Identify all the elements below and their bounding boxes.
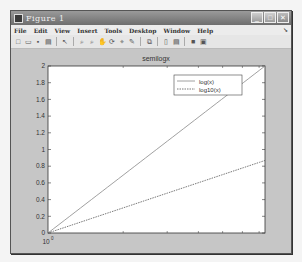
maximize-button[interactable]: □ bbox=[264, 12, 276, 23]
legend-entry-log10: log10(x) bbox=[199, 87, 221, 93]
figure-window: Figure 1 _ □ ✕ File Edit View Insert Too… bbox=[10, 10, 292, 254]
show-plot-tools-icon[interactable]: ▣ bbox=[199, 38, 207, 46]
data-cursor-icon[interactable]: ⌖ bbox=[118, 38, 126, 46]
toolbar-divider bbox=[140, 37, 141, 46]
y-tick-label: 1.8 bbox=[36, 79, 45, 86]
link-plot-icon[interactable]: ⧉ bbox=[145, 38, 153, 46]
menu-view[interactable]: View bbox=[54, 27, 70, 34]
y-tick-label: 1.6 bbox=[36, 96, 45, 103]
plot-axes[interactable]: semilogx 00.20.40.60.811.21.41.61.82 10 … bbox=[11, 49, 291, 255]
insert-colorbar-icon[interactable]: ▯ bbox=[162, 38, 170, 46]
figure-canvas: semilogx 00.20.40.60.811.21.41.61.82 10 … bbox=[11, 49, 291, 253]
dock-arrow-icon[interactable]: ↘ bbox=[283, 26, 288, 33]
y-tick-label: 0.2 bbox=[36, 213, 45, 220]
zoom-out-icon[interactable]: ⌕ bbox=[88, 38, 96, 46]
pan-icon[interactable]: ✋ bbox=[98, 38, 106, 46]
new-figure-icon[interactable]: □ bbox=[14, 38, 22, 46]
matlab-figure-icon bbox=[14, 14, 23, 23]
y-tick-label: 0 bbox=[41, 229, 45, 236]
insert-legend-icon[interactable]: ▤ bbox=[172, 38, 180, 46]
y-tick-label: 1.4 bbox=[36, 112, 45, 119]
open-file-icon[interactable]: ▭ bbox=[24, 38, 32, 46]
window-title: Figure 1 bbox=[26, 14, 65, 23]
close-button[interactable]: ✕ bbox=[277, 12, 289, 23]
menu-tools[interactable]: Tools bbox=[105, 27, 122, 34]
menu-file[interactable]: File bbox=[14, 27, 27, 34]
menu-desktop[interactable]: Desktop bbox=[129, 27, 157, 34]
brush-icon[interactable]: ✎ bbox=[128, 38, 136, 46]
legend[interactable]: log(x) log10(x) bbox=[174, 75, 242, 95]
toolbar-divider bbox=[157, 37, 158, 46]
x-tick-label: 10 bbox=[42, 238, 50, 245]
menu-insert[interactable]: Insert bbox=[77, 27, 97, 34]
rotate-3d-icon[interactable]: ⟳ bbox=[108, 38, 116, 46]
toolbar-divider bbox=[184, 37, 185, 46]
chart-title: semilogx bbox=[142, 55, 170, 63]
zoom-in-icon[interactable]: ⌕ bbox=[78, 38, 86, 46]
y-tick-label: 2 bbox=[41, 62, 45, 69]
print-icon[interactable]: ▤ bbox=[44, 38, 52, 46]
menu-bar: File Edit View Insert Tools Desktop Wind… bbox=[11, 25, 291, 35]
y-tick-label: 0.8 bbox=[36, 162, 45, 169]
menu-help[interactable]: Help bbox=[197, 27, 213, 34]
y-tick-label: 1.2 bbox=[36, 129, 45, 136]
menu-window[interactable]: Window bbox=[164, 27, 191, 34]
y-tick-label: 0.4 bbox=[36, 196, 45, 203]
figure-toolbar: □ ▭ ▪ ▤ ↖ ⌕ ⌕ ✋ ⟳ ⌖ ✎ ⧉ ▯ ▤ ■ ▣ bbox=[11, 35, 291, 49]
save-icon[interactable]: ▪ bbox=[34, 38, 42, 46]
toolbar-divider bbox=[73, 37, 74, 46]
x-tick-exponent: 0 bbox=[51, 236, 54, 241]
toolbar-divider bbox=[56, 37, 57, 46]
menu-edit[interactable]: Edit bbox=[34, 27, 48, 34]
hide-plot-tools-icon[interactable]: ■ bbox=[189, 38, 197, 46]
title-bar[interactable]: Figure 1 _ □ ✕ bbox=[11, 11, 291, 25]
edit-plot-icon[interactable]: ↖ bbox=[61, 38, 69, 46]
legend-entry-log: log(x) bbox=[199, 79, 214, 85]
minimize-button[interactable]: _ bbox=[251, 12, 263, 23]
y-tick-label: 1 bbox=[41, 146, 45, 153]
y-tick-label: 0.6 bbox=[36, 179, 45, 186]
